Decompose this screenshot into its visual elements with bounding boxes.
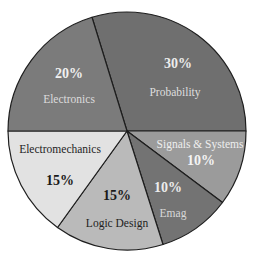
label-probability-name: Probability <box>149 86 200 99</box>
label-electromech-pct: 15% <box>46 173 74 188</box>
label-emag-name: Emag <box>160 207 187 220</box>
label-logic-pct: 15% <box>103 188 131 203</box>
label-emag-pct: 10% <box>154 180 182 195</box>
label-signals-pct: 10% <box>187 153 215 168</box>
label-signals-name: Signals & Systems <box>157 138 244 151</box>
label-electromech-name: Electromechanics <box>19 143 101 155</box>
label-logic-name: Logic Design <box>86 217 149 230</box>
pie-chart: 30% Probability 20% Electronics Signals … <box>0 0 253 259</box>
pie-slices <box>8 12 246 250</box>
label-probability-pct: 30% <box>164 56 192 71</box>
label-electronics-name: Electronics <box>43 93 95 105</box>
label-electronics-pct: 20% <box>55 66 83 81</box>
